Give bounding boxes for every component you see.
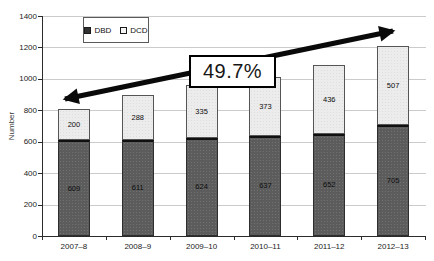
trend-annotation: 49.7% bbox=[189, 55, 276, 88]
trend-annotation-label: 49.7% bbox=[203, 60, 262, 83]
chart-canvas: 02004006008001000120014006092002007–8611… bbox=[0, 0, 434, 261]
trend-arrow bbox=[0, 0, 434, 261]
